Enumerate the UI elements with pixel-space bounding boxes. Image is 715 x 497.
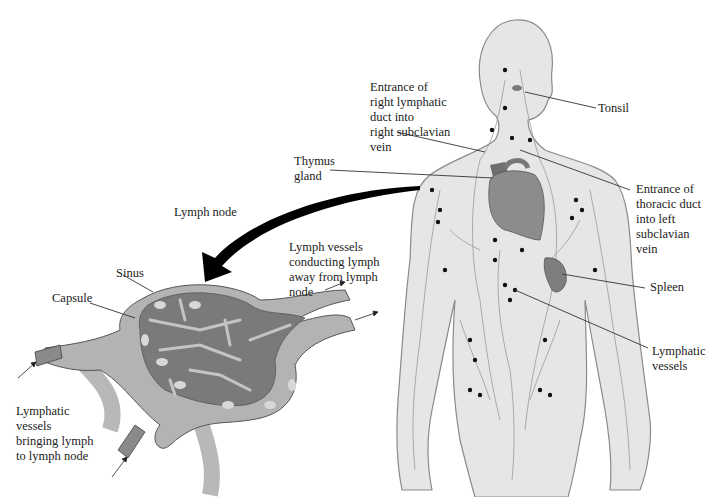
label-right-lymphatic-duct: Entrance of right lymphatic duct into ri…: [370, 80, 450, 155]
label-lymphatic-vessels: Lymphatic vessels: [652, 344, 705, 374]
tonsil-shape: [512, 85, 522, 91]
label-spleen: Spleen: [650, 280, 684, 295]
label-afferent-lymphatic-vessels: Lymphatic vessels bringing lymph to lymp…: [16, 404, 93, 464]
label-capsule: Capsule: [52, 291, 92, 306]
label-lymph-node: Lymph node: [174, 205, 237, 220]
label-thymus-gland: Thymus gland: [294, 154, 335, 184]
label-efferent-lymph-vessels: Lymph vessels conducting lymph away from…: [289, 240, 380, 300]
label-tonsil: Tonsil: [598, 101, 629, 116]
lymphatic-system-diagram: Tonsil Entrance of right lymphatic duct …: [0, 0, 715, 497]
label-sinus: Sinus: [116, 266, 144, 281]
label-thoracic-duct: Entrance of thoracic duct into left subc…: [636, 182, 701, 257]
